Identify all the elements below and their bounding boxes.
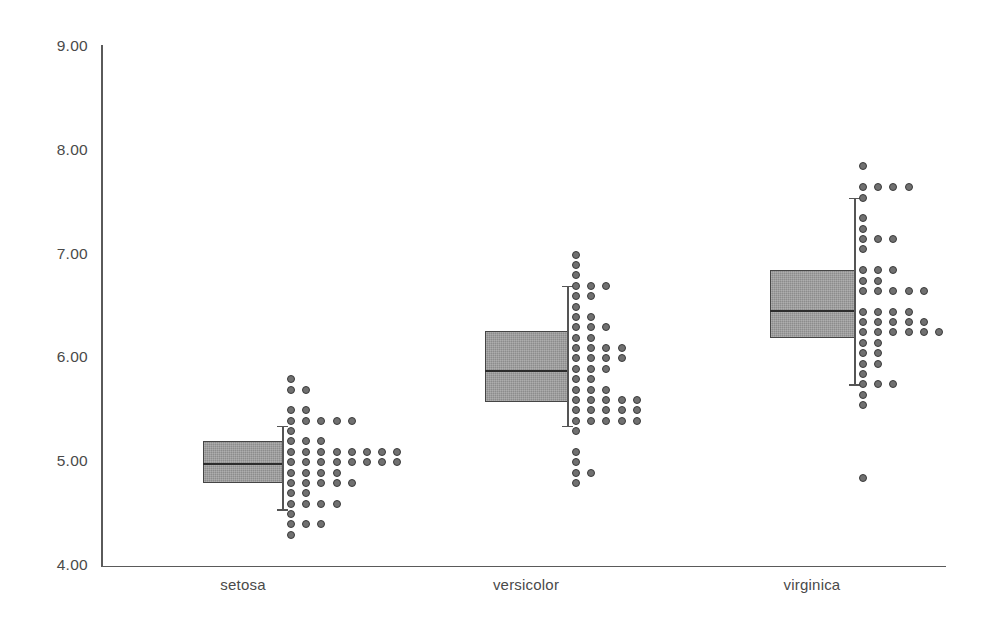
data-point bbox=[302, 437, 310, 445]
data-point bbox=[935, 328, 943, 336]
data-point bbox=[572, 479, 580, 487]
data-point bbox=[302, 417, 310, 425]
data-point bbox=[905, 183, 913, 191]
data-point bbox=[859, 360, 867, 368]
data-point bbox=[587, 375, 595, 383]
data-point bbox=[587, 406, 595, 414]
data-point bbox=[889, 235, 897, 243]
data-point bbox=[633, 396, 641, 404]
data-point bbox=[920, 287, 928, 295]
whisker-cap-lower-setosa bbox=[277, 509, 288, 511]
data-point bbox=[874, 308, 882, 316]
data-point bbox=[287, 458, 295, 466]
data-point bbox=[393, 448, 401, 456]
data-point bbox=[602, 406, 610, 414]
data-point bbox=[287, 489, 295, 497]
data-point bbox=[287, 437, 295, 445]
data-point bbox=[905, 328, 913, 336]
data-point bbox=[287, 469, 295, 477]
data-point bbox=[572, 427, 580, 435]
data-point bbox=[602, 417, 610, 425]
data-point bbox=[572, 334, 580, 342]
whisker-stem-versicolor bbox=[567, 286, 569, 426]
data-point bbox=[618, 396, 626, 404]
data-point bbox=[889, 318, 897, 326]
data-point bbox=[618, 354, 626, 362]
data-point bbox=[287, 386, 295, 394]
data-point bbox=[889, 328, 897, 336]
whisker-cap-lower-versicolor bbox=[562, 426, 573, 428]
data-point bbox=[859, 318, 867, 326]
data-point bbox=[859, 391, 867, 399]
data-point bbox=[587, 354, 595, 362]
data-point bbox=[302, 500, 310, 508]
data-point bbox=[618, 417, 626, 425]
data-point bbox=[287, 479, 295, 487]
data-point bbox=[602, 365, 610, 373]
data-point bbox=[302, 458, 310, 466]
data-point bbox=[378, 448, 386, 456]
data-point bbox=[874, 360, 882, 368]
data-point bbox=[348, 417, 356, 425]
data-point bbox=[302, 448, 310, 456]
median-line-setosa bbox=[203, 463, 283, 465]
data-point bbox=[333, 469, 341, 477]
data-point bbox=[363, 458, 371, 466]
data-point bbox=[572, 292, 580, 300]
y-axis-line bbox=[101, 45, 103, 566]
data-point bbox=[889, 266, 897, 274]
data-point bbox=[874, 235, 882, 243]
data-point bbox=[317, 479, 325, 487]
data-point bbox=[859, 380, 867, 388]
y-tick-label: 8.00 bbox=[30, 141, 88, 159]
data-point bbox=[618, 406, 626, 414]
data-point bbox=[333, 417, 341, 425]
data-point bbox=[287, 510, 295, 518]
data-point bbox=[302, 520, 310, 528]
y-tick-label: 4.00 bbox=[30, 556, 88, 574]
data-point bbox=[572, 406, 580, 414]
data-point bbox=[287, 417, 295, 425]
data-point bbox=[859, 214, 867, 222]
data-point bbox=[572, 396, 580, 404]
data-point bbox=[572, 417, 580, 425]
x-tick-label-versicolor: versicolor bbox=[493, 576, 559, 593]
data-point bbox=[348, 479, 356, 487]
data-point bbox=[287, 531, 295, 539]
data-point bbox=[874, 380, 882, 388]
data-point bbox=[889, 308, 897, 316]
data-point bbox=[317, 458, 325, 466]
data-point bbox=[905, 318, 913, 326]
data-point bbox=[287, 448, 295, 456]
data-point bbox=[859, 339, 867, 347]
data-point bbox=[859, 162, 867, 170]
data-point bbox=[287, 375, 295, 383]
data-point bbox=[602, 396, 610, 404]
data-point bbox=[587, 469, 595, 477]
data-point bbox=[587, 292, 595, 300]
x-tick-label-setosa: setosa bbox=[220, 576, 265, 593]
data-point bbox=[572, 313, 580, 321]
data-point bbox=[602, 386, 610, 394]
data-point bbox=[633, 417, 641, 425]
data-point bbox=[859, 235, 867, 243]
box-versicolor bbox=[485, 331, 568, 402]
outlier-point bbox=[859, 474, 867, 482]
data-point bbox=[572, 271, 580, 279]
data-point bbox=[859, 266, 867, 274]
data-point bbox=[587, 344, 595, 352]
data-point bbox=[302, 469, 310, 477]
data-point bbox=[348, 458, 356, 466]
data-point bbox=[859, 245, 867, 253]
data-point bbox=[859, 194, 867, 202]
data-point bbox=[572, 344, 580, 352]
data-point bbox=[587, 313, 595, 321]
whisker-stem-virginica bbox=[854, 198, 856, 385]
x-tick-label-virginica: virginica bbox=[784, 576, 841, 593]
data-point bbox=[333, 479, 341, 487]
data-point bbox=[618, 344, 626, 352]
data-point bbox=[333, 448, 341, 456]
data-point bbox=[302, 406, 310, 414]
data-point bbox=[587, 386, 595, 394]
y-tick-label: 5.00 bbox=[30, 452, 88, 470]
